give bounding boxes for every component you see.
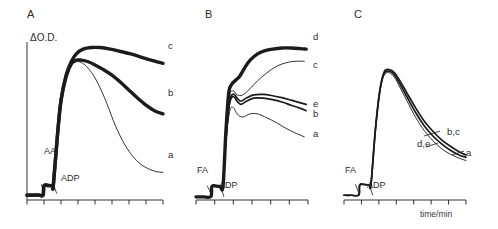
panel-b-addition-fa: FA	[197, 166, 208, 175]
panel-a-curve-label-b: b	[168, 88, 173, 98]
panel-b-addition-adp: ADP	[219, 181, 238, 190]
panel-c-curve-label-a: a	[466, 148, 471, 158]
panel-a-curve-label-c: c	[168, 41, 173, 51]
panel-b-trace-d	[196, 48, 306, 197]
y-axis-label: ΔO.D.	[30, 33, 57, 43]
figure-plot-svg	[0, 0, 498, 229]
panel-a-trace-c	[27, 47, 163, 195]
panel-b-curve-label-d: d	[313, 32, 318, 42]
panel-c-addition-fa: FA	[345, 166, 356, 175]
panel-a-addition-aa: AA	[44, 147, 56, 156]
panel-a-trace-b	[27, 60, 163, 196]
panel-letter-c: C	[354, 9, 362, 20]
panel-c-curve-label-de: d,e	[417, 139, 430, 149]
panel-b-curve-label-b: b	[313, 109, 318, 119]
panel-letter-b: B	[205, 9, 212, 20]
panel-a-trace-a	[27, 62, 163, 196]
panel-b-curve-label-a: a	[313, 129, 318, 139]
panel-c-curve-label-bc: b,c	[447, 127, 460, 137]
panel-letter-a: A	[27, 9, 34, 20]
panel-a-curve-label-a: a	[168, 150, 173, 160]
panel-b-trace-b	[196, 96, 306, 197]
panel-b-curve-label-c: c	[313, 60, 318, 70]
panel-b-trace-e	[196, 94, 306, 197]
panel-c-addition-adp: ADP	[367, 181, 386, 190]
panel-a-addition-adp: ADP	[61, 174, 80, 183]
figure-container: A B C ΔO.D. time/min c b a AA ADP d c e …	[0, 0, 498, 229]
panel-b-trace-a	[196, 107, 304, 197]
x-axis-label: time/min	[420, 210, 452, 219]
